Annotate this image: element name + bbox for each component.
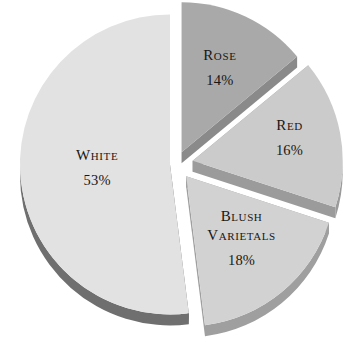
slice-label-value-white: 53%	[84, 172, 111, 188]
pie-chart-svg: Rose14%Red16%BlushVarietals18%White53%	[0, 0, 355, 343]
slice-label-value-rose: 14%	[206, 72, 233, 88]
slice-label-name-red: Red	[276, 117, 302, 133]
slice-label-name-blush-varietals: Blush	[221, 208, 263, 224]
slice-label-name-white: White	[76, 147, 118, 163]
slice-label-value-blush-varietals: 18%	[228, 252, 255, 268]
slice-label-value-red: 16%	[276, 142, 303, 158]
pie-chart-figure: Rose14%Red16%BlushVarietals18%White53%	[0, 0, 355, 343]
slice-label-name-rose: Rose	[203, 47, 236, 63]
slice-label-name-blush-varietals: Varietals	[207, 227, 276, 243]
